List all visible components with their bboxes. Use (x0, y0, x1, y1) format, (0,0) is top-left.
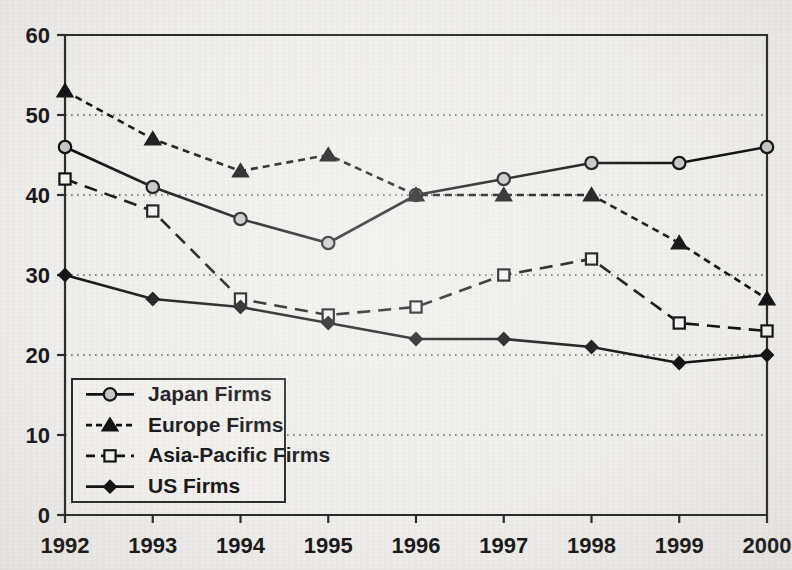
data-point-marker (410, 301, 421, 312)
data-point-marker (673, 157, 685, 169)
data-point-marker (59, 141, 71, 153)
legend-marker-sample (104, 388, 116, 400)
data-point-marker (673, 357, 686, 370)
legend-item-label: Europe Firms (148, 413, 283, 436)
x-axis-tick-labels: 199219931994199519961997199819992000 (41, 533, 792, 558)
data-point-marker (320, 148, 336, 161)
y-tick-label: 50 (26, 103, 50, 128)
data-point-marker (585, 341, 598, 354)
data-point-marker (147, 181, 159, 193)
chart-canvas: 0102030405060 19921993199419951996199719… (0, 0, 792, 570)
data-point-marker (584, 188, 600, 201)
x-tick-label: 1993 (128, 533, 177, 558)
x-tick-label: 1998 (567, 533, 616, 558)
data-point-marker (761, 325, 772, 336)
data-point-marker (59, 173, 70, 184)
data-point-marker (498, 269, 509, 280)
x-tick-label: 1996 (392, 533, 441, 558)
x-tick-label: 2000 (743, 533, 792, 558)
series-lines (65, 91, 767, 363)
y-tick-label: 20 (26, 343, 50, 368)
legend-item-label: US Firms (148, 474, 240, 497)
data-point-marker (233, 164, 249, 177)
x-tick-label: 1992 (41, 533, 90, 558)
y-tick-label: 10 (26, 423, 50, 448)
x-tick-label: 1999 (655, 533, 704, 558)
data-point-marker (147, 205, 158, 216)
line-chart: 0102030405060 19921993199419951996199719… (0, 0, 792, 570)
data-point-marker (585, 157, 597, 169)
data-point-marker (497, 333, 510, 346)
x-tick-label: 1995 (304, 533, 353, 558)
data-point-marker (671, 236, 687, 249)
data-point-marker (498, 173, 510, 185)
data-point-marker (759, 292, 775, 305)
data-point-marker (410, 333, 423, 346)
data-point-marker (761, 141, 773, 153)
legend-item-label: Japan Firms (148, 382, 272, 405)
data-point-marker (586, 253, 597, 264)
data-point-marker (59, 269, 72, 282)
y-tick-label: 30 (26, 263, 50, 288)
data-point-marker (145, 132, 161, 145)
y-tick-label: 0 (38, 503, 50, 528)
y-axis-tick-labels: 0102030405060 (26, 23, 50, 528)
data-point-marker (674, 317, 685, 328)
data-point-marker (761, 349, 774, 362)
data-point-marker (146, 293, 159, 306)
y-tick-label: 60 (26, 23, 50, 48)
data-point-marker (234, 213, 246, 225)
series-line (65, 275, 767, 363)
x-tick-label: 1994 (216, 533, 266, 558)
legend-item-label: Asia-Pacific Firms (148, 443, 330, 466)
x-tick-label: 1997 (479, 533, 528, 558)
data-point-marker (57, 84, 73, 97)
legend-marker-sample (104, 450, 115, 461)
series-markers (57, 84, 775, 370)
data-point-marker (322, 237, 334, 249)
chart-legend: Japan FirmsEurope FirmsAsia-Pacific Firm… (72, 379, 330, 502)
y-tick-label: 40 (26, 183, 50, 208)
